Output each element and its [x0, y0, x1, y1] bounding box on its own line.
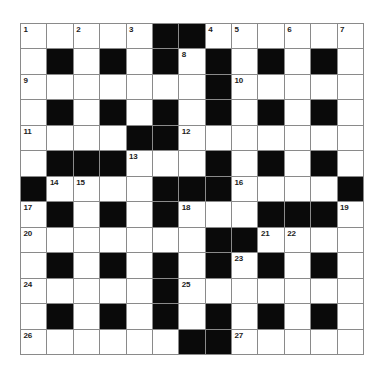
- letter-cell[interactable]: [74, 279, 99, 303]
- letter-cell[interactable]: [74, 330, 99, 354]
- letter-cell[interactable]: [232, 151, 257, 175]
- letter-cell[interactable]: [153, 330, 178, 354]
- letter-cell[interactable]: 13: [127, 151, 152, 175]
- letter-cell[interactable]: [338, 49, 363, 73]
- letter-cell[interactable]: [100, 24, 125, 48]
- letter-cell[interactable]: [179, 253, 204, 277]
- letter-cell[interactable]: [127, 177, 152, 201]
- letter-cell[interactable]: [100, 177, 125, 201]
- letter-cell[interactable]: 1: [21, 24, 46, 48]
- letter-cell[interactable]: [338, 151, 363, 175]
- letter-cell[interactable]: [311, 330, 336, 354]
- letter-cell[interactable]: [47, 279, 72, 303]
- letter-cell[interactable]: [47, 24, 72, 48]
- letter-cell[interactable]: [311, 279, 336, 303]
- letter-cell[interactable]: 2: [74, 24, 99, 48]
- letter-cell[interactable]: [285, 279, 310, 303]
- letter-cell[interactable]: 8: [179, 49, 204, 73]
- letter-cell[interactable]: [206, 202, 231, 226]
- letter-cell[interactable]: [338, 100, 363, 124]
- letter-cell[interactable]: [338, 330, 363, 354]
- letter-cell[interactable]: 10: [232, 75, 257, 99]
- letter-cell[interactable]: [21, 100, 46, 124]
- letter-cell[interactable]: [21, 253, 46, 277]
- letter-cell[interactable]: [258, 330, 283, 354]
- letter-cell[interactable]: [206, 279, 231, 303]
- letter-cell[interactable]: [338, 279, 363, 303]
- letter-cell[interactable]: [311, 228, 336, 252]
- letter-cell[interactable]: 3: [127, 24, 152, 48]
- letter-cell[interactable]: [74, 228, 99, 252]
- letter-cell[interactable]: [311, 126, 336, 150]
- letter-cell[interactable]: [338, 253, 363, 277]
- letter-cell[interactable]: [258, 75, 283, 99]
- letter-cell[interactable]: 17: [21, 202, 46, 226]
- letter-cell[interactable]: [285, 100, 310, 124]
- letter-cell[interactable]: 15: [74, 177, 99, 201]
- letter-cell[interactable]: [179, 228, 204, 252]
- letter-cell[interactable]: 16: [232, 177, 257, 201]
- letter-cell[interactable]: [127, 202, 152, 226]
- letter-cell[interactable]: 19: [338, 202, 363, 226]
- letter-cell[interactable]: [21, 151, 46, 175]
- letter-cell[interactable]: [232, 279, 257, 303]
- letter-cell[interactable]: [153, 228, 178, 252]
- letter-cell[interactable]: 21: [258, 228, 283, 252]
- letter-cell[interactable]: [74, 202, 99, 226]
- letter-cell[interactable]: [232, 49, 257, 73]
- letter-cell[interactable]: [232, 202, 257, 226]
- letter-cell[interactable]: [285, 49, 310, 73]
- letter-cell[interactable]: [127, 253, 152, 277]
- letter-cell[interactable]: [206, 126, 231, 150]
- letter-cell[interactable]: [285, 330, 310, 354]
- letter-cell[interactable]: [179, 75, 204, 99]
- letter-cell[interactable]: 24: [21, 279, 46, 303]
- letter-cell[interactable]: [285, 75, 310, 99]
- letter-cell[interactable]: [21, 304, 46, 328]
- letter-cell[interactable]: [338, 228, 363, 252]
- letter-cell[interactable]: [47, 75, 72, 99]
- letter-cell[interactable]: 25: [179, 279, 204, 303]
- letter-cell[interactable]: [74, 100, 99, 124]
- letter-cell[interactable]: 9: [21, 75, 46, 99]
- letter-cell[interactable]: [127, 75, 152, 99]
- letter-cell[interactable]: 18: [179, 202, 204, 226]
- letter-cell[interactable]: [232, 126, 257, 150]
- letter-cell[interactable]: [258, 126, 283, 150]
- letter-cell[interactable]: [285, 177, 310, 201]
- letter-cell[interactable]: [338, 304, 363, 328]
- letter-cell[interactable]: [127, 228, 152, 252]
- letter-cell[interactable]: [127, 100, 152, 124]
- letter-cell[interactable]: [311, 75, 336, 99]
- letter-cell[interactable]: [338, 126, 363, 150]
- letter-cell[interactable]: [153, 75, 178, 99]
- letter-cell[interactable]: [179, 151, 204, 175]
- letter-cell[interactable]: 26: [21, 330, 46, 354]
- letter-cell[interactable]: [127, 330, 152, 354]
- letter-cell[interactable]: [285, 253, 310, 277]
- letter-cell[interactable]: [47, 228, 72, 252]
- letter-cell[interactable]: [100, 330, 125, 354]
- letter-cell[interactable]: [74, 253, 99, 277]
- letter-cell[interactable]: 22: [285, 228, 310, 252]
- letter-cell[interactable]: 23: [232, 253, 257, 277]
- letter-cell[interactable]: [153, 151, 178, 175]
- letter-cell[interactable]: 5: [232, 24, 257, 48]
- letter-cell[interactable]: [338, 75, 363, 99]
- letter-cell[interactable]: [258, 24, 283, 48]
- letter-cell[interactable]: 11: [21, 126, 46, 150]
- letter-cell[interactable]: [285, 151, 310, 175]
- letter-cell[interactable]: [179, 304, 204, 328]
- letter-cell[interactable]: [311, 24, 336, 48]
- letter-cell[interactable]: [258, 279, 283, 303]
- letter-cell[interactable]: [100, 279, 125, 303]
- letter-cell[interactable]: [232, 100, 257, 124]
- letter-cell[interactable]: [74, 304, 99, 328]
- letter-cell[interactable]: [127, 304, 152, 328]
- letter-cell[interactable]: [179, 100, 204, 124]
- letter-cell[interactable]: [311, 177, 336, 201]
- letter-cell[interactable]: [127, 279, 152, 303]
- letter-cell[interactable]: [74, 75, 99, 99]
- letter-cell[interactable]: [232, 304, 257, 328]
- letter-cell[interactable]: [47, 330, 72, 354]
